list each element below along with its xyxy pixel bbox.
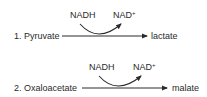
reaction-2-substrate: 2. Oxaloacetate <box>14 83 77 93</box>
reaction-2-substrate-name: Oxaloacetate <box>24 83 77 93</box>
reaction-1-cofactor-out: NAD+ <box>113 10 136 20</box>
reaction-1-cofactor-curve-arrow <box>80 24 121 34</box>
reaction-2-cofactor-out: NAD+ <box>133 62 156 72</box>
reaction-1-cofactor-in: NADH <box>70 10 96 20</box>
reaction-1-number: 1. <box>14 31 22 41</box>
reaction-2-cofactor-curve-arrow <box>99 76 141 86</box>
reaction-1-product: lactate <box>151 31 178 41</box>
reaction-1-substrate: 1. Pyruvate <box>14 31 60 41</box>
reaction-2-number: 2. <box>14 83 22 93</box>
reaction-2-product: malate <box>172 83 199 93</box>
reaction-2-cofactor-in: NADH <box>89 62 115 72</box>
reaction-1-substrate-name: Pyruvate <box>24 31 60 41</box>
